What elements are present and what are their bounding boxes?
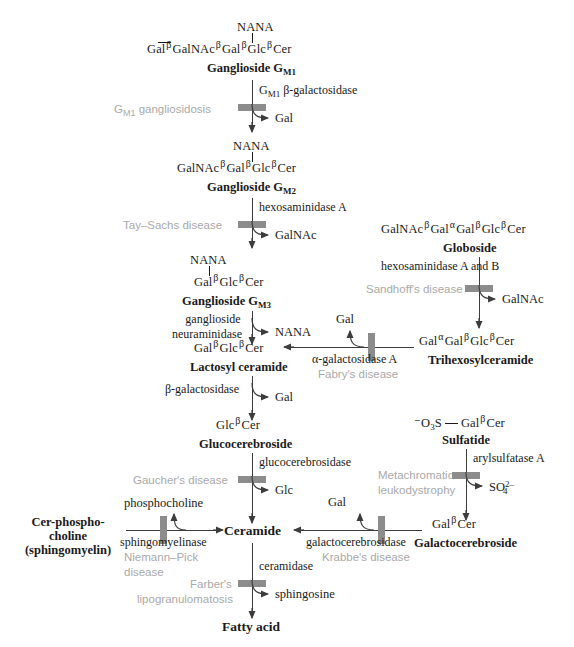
gm2-structure: GalNAcβGalβGlcβCer <box>177 161 296 176</box>
gm3-structure: GalβGlcβCer <box>194 275 263 290</box>
lactosyl-ceramide-structure: GalβGlcβCer <box>194 341 263 356</box>
disease-krabbe: Krabbe's disease <box>322 551 410 563</box>
product-sphingosine: sphingosine <box>275 587 335 602</box>
enzyme-arylsulfatase-a: arylsulfatase A <box>473 451 545 466</box>
enzyme-ceramidase: ceramidase <box>259 559 313 574</box>
enzyme-glucocerebrosidase: glucocerebrosidase <box>259 455 351 470</box>
disease-gaucher: Gaucher's disease <box>133 474 228 486</box>
product-gal-2: Gal <box>275 390 293 405</box>
product-galnac-2: GalNAc <box>502 292 544 307</box>
enzyme-galactocerebrosidase: galactocerebrosidase <box>306 535 406 550</box>
enzyme-hexosaminidase-a-and-b: hexosaminidase A and B <box>381 259 499 274</box>
sphingomyelin-label-line1: Cer-phospho- <box>16 515 120 530</box>
enzyme-beta-galactosidase: β-galactosidase <box>165 382 239 397</box>
trihexosylceramide-structure: GalαGalβGlcβCer <box>419 334 514 349</box>
pathway-diagram: NANA GalβGalNAcβGalβGlcβCer Ganglioside … <box>0 0 574 647</box>
enzyme-gm1-beta-galactosidase: GM1 β-galactosidase <box>259 83 357 99</box>
trihexosylceramide-label: Trihexosylceramide <box>428 353 533 368</box>
sphingomyelin-label-line3: (sphingomyelin) <box>10 543 126 558</box>
product-phosphocholine: phosphocholine <box>124 496 203 511</box>
disease-gm1-gangliosidosis: GM1 gangliosidosis <box>114 103 211 118</box>
gm2-label: Ganglioside GM2 <box>207 180 296 196</box>
disease-farber-line2: lipogranulomatosis <box>137 593 233 605</box>
product-nana: NANA <box>275 325 311 340</box>
enzyme-ganglioside-neuraminidase-line1: ganglioside <box>178 312 248 327</box>
product-gal-3: Gal <box>336 312 354 327</box>
product-glc: Glc <box>275 483 293 498</box>
gm1-branch-nana: NANA <box>237 20 274 35</box>
disease-sandhoff: Sandhoff's disease <box>366 283 463 295</box>
product-galnac-1: GalNAc <box>275 228 317 243</box>
enzyme-hexosaminidase-a: hexosaminidase A <box>259 200 347 215</box>
sulfatide-structure: ⁻O3SGalβCer <box>414 415 505 432</box>
fatty-acid-label: Fatty acid <box>222 619 280 635</box>
ceramide-label: Ceramide <box>224 523 281 539</box>
disease-niemann-pick-line2: disease <box>124 566 164 578</box>
enzyme-ganglioside-neuraminidase-line2: neuraminidase <box>166 327 248 342</box>
product-sulfate: SO2–4 <box>489 479 507 496</box>
disease-metachromatic-line1: Metachromatic <box>378 469 453 481</box>
globoside-label: Globoside <box>443 241 497 256</box>
arrow-ceramide-fattyacid-shaft <box>252 543 253 615</box>
product-gal-4: Gal <box>328 495 346 510</box>
globoside-structure: GalNAcβGalαGalβGlcβCer <box>381 222 526 237</box>
disease-niemann-pick-line1: Niemann–Pick <box>124 551 198 563</box>
disease-metachromatic-line2: leukodystrophy <box>378 484 455 496</box>
gm1-structure: GalβGalNAcβGalβGlcβCer <box>147 42 292 57</box>
arrow-globoside-trihexosyl-head <box>473 318 487 330</box>
sphingomyelin-label-line2: choline <box>16 529 120 544</box>
enzyme-alpha-galactosidase-a: α-galactosidase A <box>312 352 397 367</box>
galactocerebroside-label: Galactocerebroside <box>414 536 517 551</box>
disease-farber-line1: Farber's <box>190 578 232 590</box>
disease-tay-sachs: Tay–Sachs disease <box>123 219 222 231</box>
lactosyl-ceramide-label: Lactosyl ceramide <box>190 360 288 375</box>
enzyme-sphingomyelinase: sphingomyelinase <box>120 535 207 550</box>
galactocerebroside-structure: GalβCer <box>432 517 476 532</box>
arrow-trihexosyl-lactosyl-head <box>280 341 294 353</box>
glucocerebroside-label: Glucocerebroside <box>199 437 292 452</box>
disease-fabry: Fabry's disease <box>318 368 398 380</box>
product-gal-1: Gal <box>275 111 293 126</box>
arrow-galacto-ceramide-head <box>290 524 304 536</box>
glucocerebroside-structure: GlcβCer <box>216 418 260 433</box>
sulfatide-label: Sulfatide <box>442 433 490 448</box>
gm1-label: Ganglioside GM1 <box>207 61 296 77</box>
gm3-label: Ganglioside GM3 <box>182 294 271 310</box>
